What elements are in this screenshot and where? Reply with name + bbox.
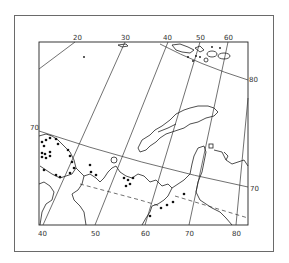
bottom-longitude-labels: 40 50 60 70 80: [38, 230, 241, 238]
lon-label-40: 40: [163, 34, 172, 42]
lon-label-bottom-80: 80: [232, 230, 241, 238]
lon-label-bottom-50: 50: [91, 230, 100, 238]
lon-label-bottom-40: 40: [38, 230, 47, 238]
latitude-labels: 80 70 70: [30, 76, 259, 193]
island-small-east: [224, 152, 228, 160]
lon-label-30: 30: [121, 34, 130, 42]
lon-label-bottom-70: 70: [185, 230, 194, 238]
lon-label-bottom-60: 60: [141, 230, 150, 238]
lon-label-60: 60: [224, 34, 233, 42]
lon-label-20: 20: [73, 34, 82, 42]
lat-label-80: 80: [249, 76, 258, 84]
yamal-peninsula: [172, 146, 232, 225]
lat-label-70-left: 70: [30, 124, 39, 132]
white-sea-coast: [72, 168, 86, 225]
belyy-island: [209, 144, 213, 148]
lon-label-50: 50: [196, 34, 205, 42]
franz-josef-land: [83, 44, 230, 62]
mainland-coast-south: [39, 182, 54, 225]
dashed-boundaries: [80, 184, 248, 218]
top-longitude-labels: 20 30 40 50 60: [73, 34, 233, 42]
kolguev-island: [111, 157, 117, 163]
lat-label-70-right: 70: [250, 185, 259, 193]
graticule-parallels: [39, 44, 248, 187]
map-canvas: 20 30 40 50 60 40 50 60 70 80 80 70 70: [0, 0, 289, 263]
